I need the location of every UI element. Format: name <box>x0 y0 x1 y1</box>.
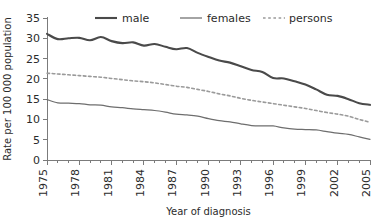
legend-label-male: male <box>122 12 150 25</box>
x-tick-label: 2002 <box>328 169 341 197</box>
x-tick-label: 1975 <box>37 169 50 197</box>
y-tick-label: 35 <box>26 12 40 25</box>
y-tick-label: 0 <box>33 154 40 167</box>
x-tick-label: 1990 <box>199 169 212 197</box>
legend-label-persons: persons <box>289 12 333 25</box>
x-tick-label: 1993 <box>231 169 244 197</box>
x-tick-label: 1981 <box>102 169 115 197</box>
series-line-persons <box>47 73 370 122</box>
y-tick-label: 20 <box>26 73 40 86</box>
x-tick-label: 1978 <box>69 169 82 197</box>
y-tick-label: 25 <box>26 53 40 66</box>
line-chart: male females persons 05101520253035 1975… <box>0 0 377 223</box>
x-axis-title: Year of diagnosis <box>165 206 250 217</box>
x-tick-label: 2005 <box>360 169 373 197</box>
chart-canvas: male females persons 05101520253035 1975… <box>0 0 377 223</box>
legend: male females persons <box>95 12 333 25</box>
y-axis: 05101520253035 <box>26 12 47 167</box>
x-axis: 1975197819811984198719901993199619992002… <box>37 160 373 197</box>
series-line-male <box>47 34 370 105</box>
x-tick-label: 1996 <box>263 169 276 197</box>
y-tick-label: 30 <box>26 32 40 45</box>
y-tick-label: 10 <box>26 113 40 126</box>
x-tick-label: 1984 <box>134 169 147 197</box>
y-axis-title: Rate per 100 000 population <box>2 17 13 161</box>
x-tick-label: 1987 <box>166 169 179 197</box>
series-line-females <box>47 100 370 140</box>
y-tick-label: 15 <box>26 93 40 106</box>
x-tick-label: 1999 <box>295 169 308 197</box>
legend-label-females: females <box>207 12 251 25</box>
y-tick-label: 5 <box>33 134 40 147</box>
